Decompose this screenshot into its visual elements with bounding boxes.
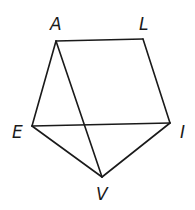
vertex-label-l: L [139, 14, 148, 34]
vertex-label-v: V [96, 184, 109, 204]
diagram-canvas: ALEIV [0, 0, 195, 210]
vertex-label-e: E [12, 122, 23, 142]
edge-li [143, 39, 170, 123]
vertex-label-i: I [180, 122, 185, 142]
geometry-figure: ALEIV [0, 0, 195, 210]
edge-ei [32, 123, 170, 126]
edge-ev [32, 126, 102, 177]
edge-iv [102, 123, 170, 177]
edge-ae [32, 41, 56, 126]
edge-al [56, 39, 143, 41]
edge-av [56, 41, 102, 177]
vertex-label-a: A [49, 14, 62, 34]
